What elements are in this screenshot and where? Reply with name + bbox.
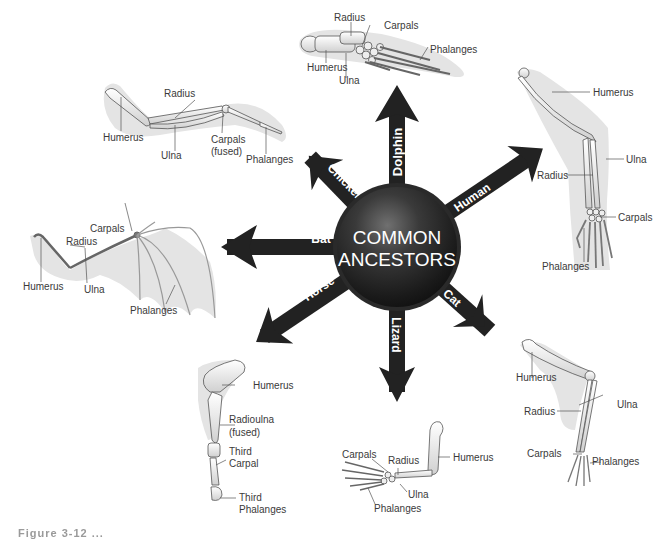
figure-caption: Figure 3-12 ... [18,527,104,539]
horse-radioulna-label: Radioulna [229,414,274,425]
horse-third-carpal-label-1: Third [229,446,252,457]
common-ancestors-sphere: COMMON ANCESTORS [333,183,461,311]
dolphin-phalanges-label: Phalanges [430,44,477,55]
cat-humerus-label: Humerus [516,372,557,383]
arrow-lizard: Lizard [379,302,415,402]
center-label-line1: COMMON [353,227,442,248]
dolphin-carpals-label: Carpals [384,20,418,31]
human-humerus-label: Humerus [593,87,634,98]
arrow-label-lizard: Lizard [389,317,403,352]
chicken-ulna-label: Ulna [161,150,182,161]
lizard-humerus-label: Humerus [453,452,494,463]
chicken-phalanges-label: Phalanges [246,154,293,165]
cat-ulna-label: Ulna [617,399,638,410]
chicken-carpals-note: (fused) [211,146,242,157]
human-phalanges-label: Phalanges [542,261,589,272]
human-carpals-label: Carpals [618,212,652,223]
bat-humerus-label: Humerus [23,281,64,292]
lizard-carpals-label: Carpals [342,449,376,460]
bat-ulna-label: Ulna [84,284,105,295]
bat-phalanges-label: Phalanges [130,305,177,316]
cat-phalanges-label: Phalanges [592,456,639,467]
human-ulna-label: Ulna [626,154,647,165]
human-radius-label: Radius [537,170,568,181]
arrow-label-dolphin: Dolphin [390,128,405,176]
cat-carpals-label: Carpals [527,448,561,459]
dolphin-radius-label: Radius [334,12,365,23]
chicken-humerus-label: Humerus [103,132,144,143]
chicken-carpals-label: Carpals [211,134,245,145]
lizard-radius-label: Radius [388,455,419,466]
lizard-ulna-label: Ulna [408,489,429,500]
dolphin-humerus-label: Humerus [307,62,348,73]
horse-third-carpal-label-2: Carpal [229,458,258,469]
arrow-dolphin: Dolphin [375,85,419,192]
lizard-phalanges-label: Phalanges [374,503,421,514]
bat-radius-label: Radius [66,236,97,247]
bat-carpals-label: Carpals [90,223,124,234]
horse-third-phalanges-label-2: Phalanges [239,504,286,515]
horse-humerus-label: Humerus [253,380,294,391]
cat-radius-label: Radius [524,406,555,417]
dolphin-ulna-label: Ulna [339,75,360,86]
horse-radioulna-note: (fused) [229,427,260,438]
center-label-line2: ANCESTORS [338,249,456,270]
arrow-label-bat: Bat [311,232,330,246]
arrow-bat: Bat [221,225,342,269]
chicken-radius-label: Radius [164,88,195,99]
homologous-structures-diagram: Dolphin Human Cat Lizard Horse [0,0,671,541]
horse-third-phalanges-label-1: Third [239,492,262,503]
